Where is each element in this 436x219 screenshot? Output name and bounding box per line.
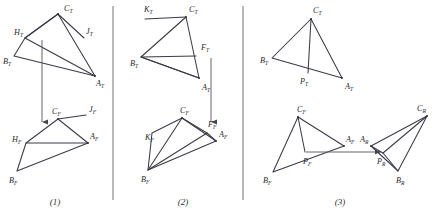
figure-root: CT HT JT BT AT CF JF HF AF BF (1) xyxy=(0,0,436,219)
label-C-F-p3: CF xyxy=(297,105,306,115)
label-C-F-p1: CF xyxy=(52,107,61,117)
panel-dividers xyxy=(113,6,243,200)
label-C-T-p1: CT xyxy=(64,4,73,14)
panel-number-2: (2) xyxy=(178,197,189,207)
label-A-T-p1: AT xyxy=(95,79,105,89)
label-H-F-p1: HF xyxy=(11,135,22,145)
segment-CJ-top-1 xyxy=(58,14,84,38)
panel-1-top-view xyxy=(14,13,96,77)
vertex-C-top-3 xyxy=(310,18,312,20)
label-F-F-p2: FF xyxy=(207,120,217,130)
vertex-A-front-1 xyxy=(87,142,89,144)
segment-BF-front-2 xyxy=(148,133,207,170)
panel-number-1: (1) xyxy=(50,197,61,207)
segment-BF-top-2 xyxy=(141,56,196,57)
label-C-R-p3: CR xyxy=(417,104,426,114)
label-K-F-p2: KF xyxy=(144,133,154,143)
segment-CP-aux-3 xyxy=(383,116,427,153)
segment-CJ-front-1 xyxy=(58,115,86,119)
triangle-outline-top-2 xyxy=(141,17,199,78)
label-B-T-p3: BT xyxy=(260,56,269,66)
vertex-A-aux-3 xyxy=(370,145,372,147)
label-C-T-p2: CT xyxy=(189,5,198,15)
label-A-R-p3: AR xyxy=(359,135,369,145)
label-A-F-p3: AF xyxy=(345,135,355,145)
label-C-F-p2: CF xyxy=(180,106,189,116)
segment-HC-top-1 xyxy=(25,14,58,38)
panel-2-labels: KT CT FT BT AT CF FF KF AF BF xyxy=(130,5,228,185)
label-B-R-p3: BR xyxy=(396,176,405,186)
label-K-T-p2: KT xyxy=(143,5,153,15)
label-C-T-p3: CT xyxy=(313,6,322,16)
panel-3: CT BT PT AT CF AF PF BF CR AR PR BR (3) xyxy=(260,6,428,207)
segment-BA-top-2 xyxy=(141,57,199,78)
panel-2-top-view xyxy=(141,16,200,79)
vertex-A-top-3 xyxy=(341,77,343,79)
triangle-outline-front-1 xyxy=(17,119,88,171)
label-A-T-p2: AT xyxy=(201,83,211,93)
label-B-T-p1: BT xyxy=(3,57,12,67)
triangle-outline-top-1 xyxy=(14,14,95,76)
panel-3-labels: CT BT PT AT CF AF PF BF CR AR PR BR xyxy=(260,6,426,186)
label-J-F-p1: JF xyxy=(89,105,97,115)
label-B-T-p2: BT xyxy=(130,59,139,69)
segment-FA-front-2 xyxy=(207,133,216,141)
vertex-C-top-2 xyxy=(185,16,187,18)
panel-1: CT HT JT BT AT CF JF HF AF BF (1) xyxy=(3,4,105,207)
label-F-T-p2: FT xyxy=(200,43,210,53)
label-B-F-p1: BF xyxy=(9,176,18,186)
label-B-F-p2: BF xyxy=(141,175,150,185)
label-A-F-p2: AF xyxy=(218,130,228,140)
panel-1-front-view xyxy=(17,115,89,171)
vertex-C-front-2 xyxy=(181,117,183,119)
vertex-C-top-1 xyxy=(57,13,59,15)
label-A-T-p3: AT xyxy=(344,82,354,92)
segment-CP-top-3 xyxy=(308,19,311,73)
triangle-outline-front-2 xyxy=(148,118,216,170)
label-P-T-p3: PT xyxy=(299,77,309,87)
panel-2-front-view xyxy=(148,117,217,170)
label-A-F-p1: AF xyxy=(89,132,99,142)
panel-1-labels: CT HT JT BT AT CF JF HF AF BF xyxy=(3,4,105,186)
segment-CP-front-3 xyxy=(298,117,305,152)
geometry-figure: CT HT JT BT AT CF JF HF AF BF (1) xyxy=(0,0,436,219)
panel-2: KT CT FT BT AT CF FF KF AF BF (2) xyxy=(130,5,228,207)
panel-number-3: (3) xyxy=(335,197,346,207)
segment-KC-top-2 xyxy=(145,17,186,19)
vertex-C-aux-3 xyxy=(426,115,428,117)
label-J-T-p1: JT xyxy=(86,27,94,37)
segment-CF-front-2 xyxy=(182,118,207,133)
vertex-C-front-3 xyxy=(297,116,299,118)
vertex-C-front-1 xyxy=(57,118,59,120)
label-H-T-p1: HT xyxy=(13,28,24,38)
vertex-A-top-1 xyxy=(94,75,96,77)
triangle-outline-top-3 xyxy=(272,19,342,78)
segment-HA-top-1 xyxy=(25,38,95,76)
label-B-F-p3: BF xyxy=(263,176,272,186)
vertex-A-front-2 xyxy=(215,140,217,142)
vertex-A-top-2 xyxy=(198,77,200,79)
panel-3-top-view xyxy=(272,18,343,79)
vertex-A-front-3 xyxy=(343,145,345,147)
